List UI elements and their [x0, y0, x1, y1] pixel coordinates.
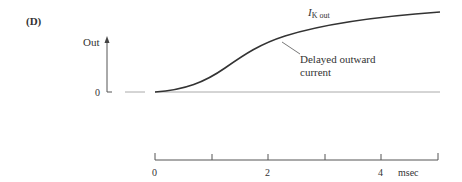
chart-figure: (D) Out 0 IK out Delayed outward current…	[0, 0, 462, 182]
annotation-line2: current	[300, 66, 331, 78]
y-axis-label: Out	[83, 36, 100, 48]
x-ticks	[155, 153, 438, 160]
x-unit-label: msec	[398, 167, 419, 178]
curve-label: IK out	[307, 6, 330, 20]
annotation-leader	[282, 42, 300, 54]
x-tick-label-2: 2	[265, 167, 270, 178]
x-tick-label-4: 4	[378, 167, 383, 178]
y-axis-arrow-icon	[105, 36, 110, 43]
annotation-line1: Delayed outward	[300, 53, 376, 65]
panel-label: (D)	[26, 15, 42, 28]
y-zero-label: 0	[95, 87, 100, 98]
x-tick-label-0: 0	[152, 167, 157, 178]
